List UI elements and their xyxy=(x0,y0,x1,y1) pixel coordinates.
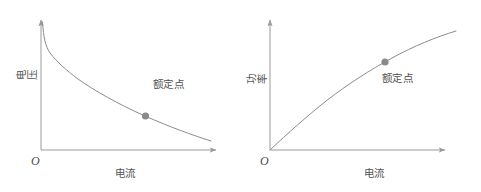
y-axis-label: 电压 xyxy=(15,71,39,82)
rated-point-label: 额定点 xyxy=(382,72,413,84)
x-axis-label: 电流 xyxy=(115,167,136,179)
power-chart-svg: 额定点 O 功率 电流 xyxy=(240,0,481,192)
x-axis-label: 电流 xyxy=(364,167,385,179)
rated-point-label: 额定点 xyxy=(153,78,184,90)
origin-label: O xyxy=(31,154,40,168)
origin-label: O xyxy=(260,154,269,168)
rated-point-marker xyxy=(381,58,388,65)
voltage-current-curve xyxy=(43,22,212,141)
voltage-chart-svg: 额定点 O 电压 电流 xyxy=(0,0,240,192)
y-axis-label: 功率 xyxy=(246,75,269,86)
dual-characteristic-curve-figure: 额定点 O 电压 电流 xyxy=(0,0,481,192)
power-current-curve xyxy=(270,31,456,150)
chart-panel-voltage-vs-current: 额定点 O 电压 电流 xyxy=(0,0,240,192)
rated-point-marker xyxy=(142,112,149,119)
chart-panel-power-vs-current: 额定点 O 功率 电流 xyxy=(240,0,481,192)
